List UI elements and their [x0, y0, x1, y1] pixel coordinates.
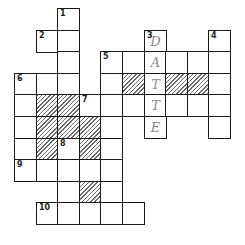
clue-number: 1 [60, 9, 66, 18]
grid-cell[interactable]: 10 [36, 202, 59, 225]
grid-cell[interactable]: 9 [14, 159, 37, 182]
grid-cell[interactable] [100, 73, 123, 96]
grid-cell[interactable] [165, 94, 188, 117]
grid-cell[interactable] [57, 159, 80, 182]
clue-number: 10 [39, 203, 50, 212]
cell-letter: E [145, 120, 166, 135]
grid-cell[interactable] [165, 51, 188, 74]
grid-cell[interactable]: T [144, 94, 167, 117]
cell-letter: A [145, 55, 166, 70]
clue-number: 5 [103, 52, 109, 61]
shaded-cell [79, 138, 102, 161]
grid-cell[interactable]: 3D [144, 30, 167, 53]
grid-cell[interactable] [57, 181, 80, 204]
grid-cell[interactable] [57, 30, 80, 53]
shaded-cell [57, 94, 80, 117]
grid-cell[interactable] [122, 51, 145, 74]
grid-cell[interactable]: T [144, 73, 167, 96]
grid-cell[interactable] [57, 51, 80, 74]
shaded-cell [57, 116, 80, 139]
shaded-cell [165, 73, 188, 96]
grid-cell[interactable] [100, 116, 123, 139]
grid-cell[interactable] [100, 181, 123, 204]
grid-cell[interactable]: E [144, 116, 167, 139]
grid-cell[interactable] [36, 73, 59, 96]
shaded-cell [187, 73, 210, 96]
clue-number: 9 [17, 160, 23, 169]
clue-number: 6 [17, 74, 23, 83]
grid-cell[interactable] [208, 73, 231, 96]
grid-cell[interactable] [208, 116, 231, 139]
grid-cell[interactable] [14, 94, 37, 117]
grid-cell[interactable] [79, 159, 102, 182]
grid-cell[interactable] [122, 202, 145, 225]
shaded-cell [122, 73, 145, 96]
shaded-cell [36, 138, 59, 161]
shaded-cell [36, 94, 59, 117]
clue-number: 7 [82, 95, 88, 104]
grid-cell[interactable] [208, 94, 231, 117]
cell-letter: D [145, 34, 166, 49]
shaded-cell [79, 181, 102, 204]
grid-cell[interactable]: 5 [100, 51, 123, 74]
grid-cell[interactable]: 4 [208, 30, 231, 53]
grid-cell[interactable] [57, 73, 80, 96]
clue-number: 2 [39, 31, 45, 40]
grid-cell[interactable] [36, 159, 59, 182]
grid-cell[interactable] [79, 202, 102, 225]
grid-cell[interactable] [14, 116, 37, 139]
grid-cell[interactable] [122, 94, 145, 117]
grid-cell[interactable] [14, 138, 37, 161]
grid-cell[interactable] [100, 94, 123, 117]
grid-cell[interactable] [100, 138, 123, 161]
grid-cell[interactable] [57, 202, 80, 225]
grid-cell[interactable]: 6 [14, 73, 37, 96]
grid-cell[interactable] [187, 51, 210, 74]
grid-cell[interactable]: 8 [57, 138, 80, 161]
grid-cell[interactable] [208, 51, 231, 74]
shaded-cell [36, 116, 59, 139]
grid-cell[interactable]: 2 [36, 30, 59, 53]
grid-cell[interactable] [187, 94, 210, 117]
crossword-grid: 123D45A6T7TE8910 [0, 0, 245, 245]
grid-cell[interactable]: 1 [57, 8, 80, 31]
clue-number: 8 [60, 139, 66, 148]
cell-letter: T [145, 77, 166, 92]
shaded-cell [79, 116, 102, 139]
grid-cell[interactable] [100, 159, 123, 182]
cell-letter: T [145, 98, 166, 113]
grid-cell[interactable]: 7 [79, 94, 102, 117]
grid-cell[interactable] [100, 202, 123, 225]
clue-number: 4 [211, 31, 217, 40]
grid-cell[interactable]: A [144, 51, 167, 74]
